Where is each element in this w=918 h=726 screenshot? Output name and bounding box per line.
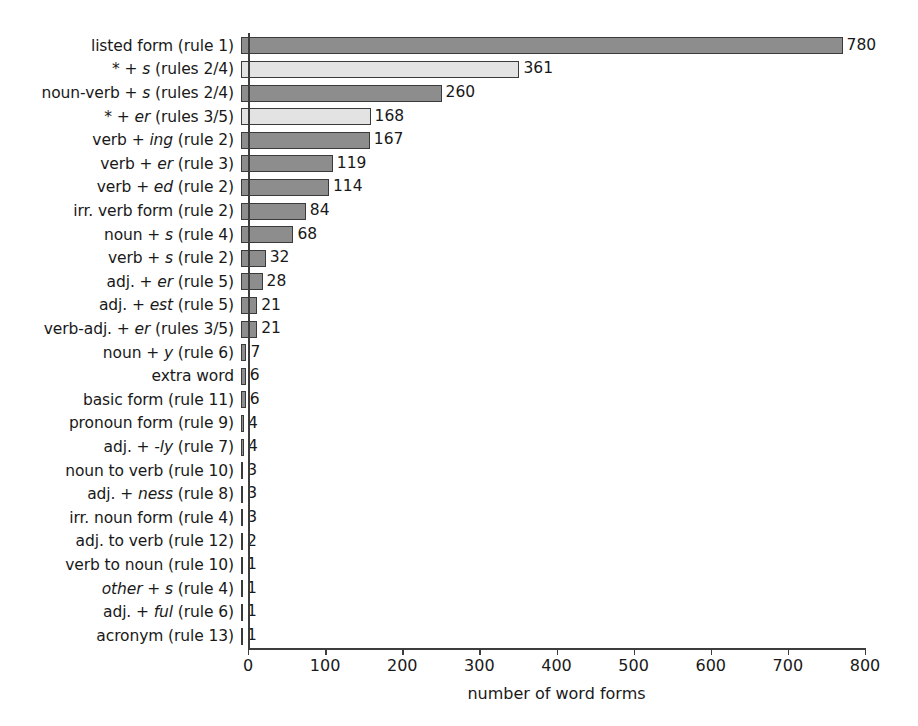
bar-track: 168 xyxy=(241,105,880,129)
x-tick-label: 500 xyxy=(618,656,649,675)
x-tick xyxy=(325,648,326,655)
bar[interactable]: 4 xyxy=(241,439,244,456)
value-label: 119 xyxy=(337,156,367,172)
bar-row: adj. + -ly (rule 7)4 xyxy=(0,435,880,459)
category-label: basic form (rule 11) xyxy=(0,392,241,408)
value-label: 28 xyxy=(267,274,287,290)
bar-track: 114 xyxy=(241,176,880,200)
bar[interactable]: 1 xyxy=(241,580,243,597)
category-label: verb + er (rule 3) xyxy=(0,156,241,172)
bar-track: 780 xyxy=(241,34,880,58)
bar-row: other + s (rule 4)1 xyxy=(0,577,880,601)
bar-row: verb-adj. + er (rules 3/5)21 xyxy=(0,317,880,341)
bar[interactable]: 119 xyxy=(241,155,333,172)
bar-row: irr. verb form (rule 2)84 xyxy=(0,199,880,223)
category-label: extra word xyxy=(0,368,241,384)
value-label: 32 xyxy=(270,251,290,267)
bar-row: noun + y (rule 6)7 xyxy=(0,341,880,365)
bar[interactable]: 1 xyxy=(241,628,243,645)
value-label: 168 xyxy=(375,109,405,125)
category-label: verb-adj. + er (rules 3/5) xyxy=(0,321,241,337)
value-label: 780 xyxy=(847,38,877,54)
bar-row: adj. + est (rule 5)21 xyxy=(0,294,880,318)
x-tick-label: 600 xyxy=(695,656,726,675)
category-label: other + s (rule 4) xyxy=(0,581,241,597)
bar-track: 167 xyxy=(241,128,880,152)
bar-row: adj. + ness (rule 8)3 xyxy=(0,483,880,507)
bar[interactable]: 6 xyxy=(241,391,246,408)
bar-track: 21 xyxy=(241,294,880,318)
category-label: adj. + est (rule 5) xyxy=(0,297,241,313)
category-label: verb + ed (rule 2) xyxy=(0,179,241,195)
category-label: * + s (rules 2/4) xyxy=(0,61,241,77)
category-label: noun + y (rule 6) xyxy=(0,345,241,361)
x-tick xyxy=(479,648,480,655)
value-label: 260 xyxy=(446,85,476,101)
category-label: noun + s (rule 4) xyxy=(0,227,241,243)
x-tick-label: 200 xyxy=(387,656,418,675)
bar-row: noun + s (rule 4)68 xyxy=(0,223,880,247)
bar[interactable]: 168 xyxy=(241,108,371,125)
bar[interactable]: 3 xyxy=(241,509,243,526)
bar[interactable]: 28 xyxy=(241,273,263,290)
bar-track: 21 xyxy=(241,317,880,341)
bar-track: 260 xyxy=(241,81,880,105)
bar[interactable]: 361 xyxy=(241,61,519,78)
bar[interactable]: 114 xyxy=(241,179,329,196)
bar-row: pronoun form (rule 9)4 xyxy=(0,412,880,436)
bar-row: acronym (rule 13)1 xyxy=(0,624,880,648)
bar[interactable]: 780 xyxy=(241,37,843,54)
value-label: 68 xyxy=(297,227,317,243)
value-label: 361 xyxy=(523,62,553,78)
value-label: 167 xyxy=(374,132,404,148)
bar-track: 1 xyxy=(241,553,880,577)
value-label: 7 xyxy=(250,345,260,361)
bar[interactable]: 3 xyxy=(241,486,243,503)
category-label: listed form (rule 1) xyxy=(0,38,241,54)
bar-row: * + er (rules 3/5)168 xyxy=(0,105,880,129)
bar-row: verb + er (rule 3)119 xyxy=(0,152,880,176)
category-label: adj. + er (rule 5) xyxy=(0,274,241,290)
bar-track: 1 xyxy=(241,624,880,648)
category-label: verb to noun (rule 10) xyxy=(0,557,241,573)
bar[interactable]: 3 xyxy=(241,462,243,479)
bar-row: verb to noun (rule 10)1 xyxy=(0,553,880,577)
bar[interactable]: 4 xyxy=(241,415,244,432)
x-tick xyxy=(788,648,789,655)
bar[interactable]: 32 xyxy=(241,250,266,267)
bar[interactable]: 1 xyxy=(241,557,243,574)
x-tick xyxy=(248,648,249,655)
bar[interactable]: 167 xyxy=(241,132,370,149)
bar[interactable]: 260 xyxy=(241,85,442,102)
value-label: 21 xyxy=(261,321,281,337)
bar[interactable]: 2 xyxy=(241,533,243,550)
bar-track: 3 xyxy=(241,459,880,483)
bar-track: 3 xyxy=(241,483,880,507)
bar-track: 84 xyxy=(241,199,880,223)
x-tick-label: 300 xyxy=(464,656,495,675)
bar-track: 28 xyxy=(241,270,880,294)
bar-row: verb + ing (rule 2)167 xyxy=(0,128,880,152)
bar-chart: listed form (rule 1)780* + s (rules 2/4)… xyxy=(0,0,918,726)
bar[interactable]: 1 xyxy=(241,604,243,621)
plot-area: listed form (rule 1)780* + s (rules 2/4)… xyxy=(0,0,918,726)
y-axis-line xyxy=(248,33,250,649)
bar-row: basic form (rule 11)6 xyxy=(0,388,880,412)
category-label: irr. noun form (rule 4) xyxy=(0,510,241,526)
bar[interactable]: 84 xyxy=(241,203,306,220)
bar-rows: listed form (rule 1)780* + s (rules 2/4)… xyxy=(0,34,880,648)
bar-track: 4 xyxy=(241,412,880,436)
value-label: 21 xyxy=(261,298,281,314)
bar-track: 6 xyxy=(241,388,880,412)
bar-track: 7 xyxy=(241,341,880,365)
category-label: * + er (rules 3/5) xyxy=(0,109,241,125)
bar[interactable]: 6 xyxy=(241,368,246,385)
category-label: noun-verb + s (rules 2/4) xyxy=(0,85,241,101)
bar-row: verb + s (rule 2)32 xyxy=(0,246,880,270)
bar-row: * + s (rules 2/4)361 xyxy=(0,58,880,82)
value-label: 114 xyxy=(333,180,363,196)
value-label: 6 xyxy=(250,392,260,408)
category-label: irr. verb form (rule 2) xyxy=(0,203,241,219)
bar[interactable]: 7 xyxy=(241,344,246,361)
x-tick-label: 800 xyxy=(850,656,881,675)
